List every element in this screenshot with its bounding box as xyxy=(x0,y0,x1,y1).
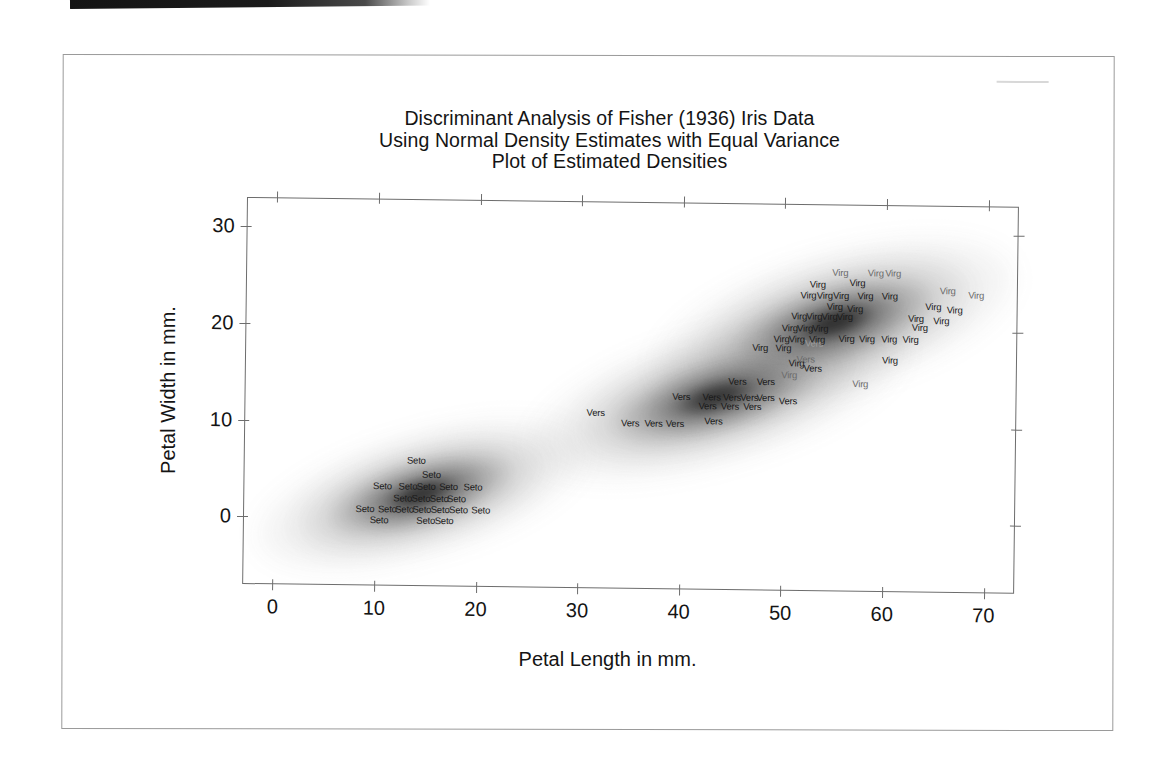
plot-area: SetoSetoSetoSetoSetoSetoSetoSetoSetoSeto… xyxy=(242,197,1019,594)
axis-tick-layer: 0102030405060700102030 xyxy=(242,197,1019,594)
x-axis-tick xyxy=(273,579,274,590)
x-axis-tick xyxy=(481,194,482,205)
y-axis-tick xyxy=(1012,332,1023,333)
x-axis-tick xyxy=(988,200,989,211)
scan-artifact-bar xyxy=(70,0,430,9)
y-axis-tick xyxy=(1010,526,1021,527)
x-axis-title: Petal Length in mm. xyxy=(20,648,1175,671)
x-axis-tick xyxy=(277,191,278,202)
x-axis-tick-label: 20 xyxy=(464,598,487,621)
chart-subtitle: Using Normal Density Estimates with Equa… xyxy=(22,130,1175,152)
x-axis-tick-label: 40 xyxy=(667,600,690,623)
y-axis-tick-label: 10 xyxy=(210,408,233,431)
x-axis-tick-label: 0 xyxy=(267,595,278,618)
x-axis-tick xyxy=(684,196,685,207)
x-axis-tick-label: 70 xyxy=(972,604,995,627)
x-axis-tick xyxy=(882,587,883,598)
y-axis-tick xyxy=(1014,236,1025,237)
chart-subtitle-2: Plot of Estimated Densities xyxy=(22,151,1175,173)
x-axis-tick xyxy=(374,581,375,592)
x-axis-tick-label: 10 xyxy=(363,596,386,619)
x-axis-tick xyxy=(780,586,781,597)
chart-title-block: Discriminant Analysis of Fisher (1936) I… xyxy=(22,108,1175,173)
y-axis-tick-label: 0 xyxy=(220,504,231,527)
x-axis-tick xyxy=(785,198,786,209)
y-axis-tick xyxy=(237,516,248,517)
x-axis-tick xyxy=(379,193,380,204)
x-axis-tick xyxy=(984,588,985,599)
x-axis-tick-label: 60 xyxy=(870,603,893,626)
x-axis-tick xyxy=(476,582,477,593)
x-axis-tick-label: 50 xyxy=(769,602,792,625)
x-axis-tick xyxy=(577,583,578,594)
y-axis-tick xyxy=(1011,429,1022,430)
y-axis-tick-label: 20 xyxy=(211,311,234,334)
scanned-page: Discriminant Analysis of Fisher (1936) I… xyxy=(0,0,1175,763)
x-axis-tick xyxy=(887,199,888,210)
y-axis-tick xyxy=(238,419,249,420)
scan-smudge-mark xyxy=(997,81,1049,83)
y-axis-tick-label: 30 xyxy=(212,214,235,237)
y-axis-tick xyxy=(241,226,252,227)
y-axis-tick xyxy=(239,323,250,324)
x-axis-tick xyxy=(679,584,680,595)
x-axis-tick-label: 30 xyxy=(566,599,589,622)
chart-title: Discriminant Analysis of Fisher (1936) I… xyxy=(22,108,1175,130)
y-axis-title: Petal Width in mm. xyxy=(157,306,180,474)
x-axis-tick xyxy=(582,195,583,206)
